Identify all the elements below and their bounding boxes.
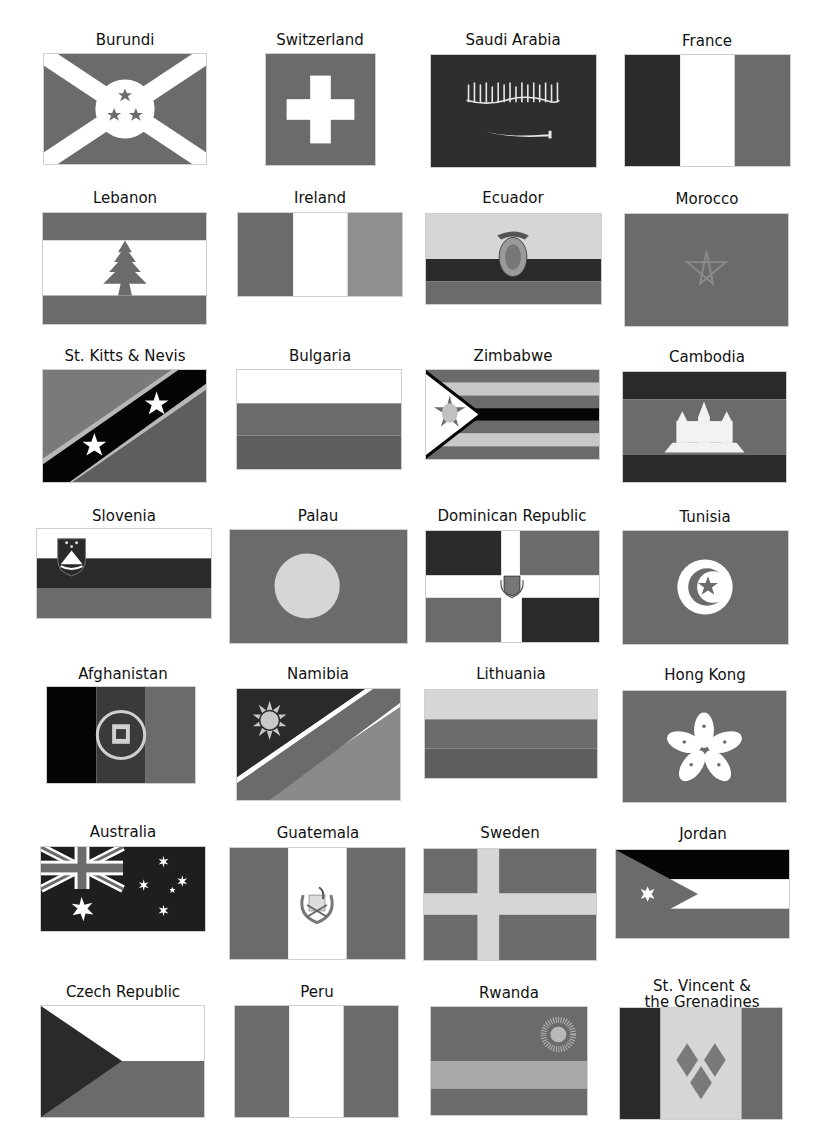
flag-palau bbox=[229, 529, 408, 644]
flag-label-peru: Peru bbox=[300, 984, 333, 1000]
disc-icon bbox=[274, 554, 339, 619]
flag-guatemala bbox=[229, 847, 406, 960]
flag-label-australia: Australia bbox=[90, 824, 156, 840]
flag-tunisia bbox=[622, 530, 789, 645]
flag-label-dominican-republic: Dominican Republic bbox=[437, 508, 586, 524]
flag-slovenia bbox=[36, 528, 212, 619]
flag-label-namibia: Namibia bbox=[287, 666, 349, 682]
flag-label-jordan: Jordan bbox=[679, 826, 727, 842]
flag-saudi-arabia bbox=[430, 54, 597, 168]
flag-sweden bbox=[423, 848, 597, 961]
flag-label-afghanistan: Afghanistan bbox=[78, 666, 167, 682]
flag-label-ireland: Ireland bbox=[294, 190, 346, 206]
flag-st-vincent-grenadines bbox=[619, 1007, 783, 1120]
flag-france bbox=[624, 54, 791, 167]
flag-czech-republic bbox=[40, 1005, 205, 1118]
flag-jordan bbox=[615, 849, 790, 939]
flag-ecuador bbox=[425, 213, 602, 305]
flag-label-st-kitts-nevis: St. Kitts & Nevis bbox=[64, 348, 185, 364]
flag-label-tunisia: Tunisia bbox=[679, 509, 730, 525]
flag-switzerland bbox=[265, 53, 376, 166]
flag-label-lebanon: Lebanon bbox=[93, 190, 157, 206]
flag-label-rwanda: Rwanda bbox=[479, 985, 539, 1001]
flag-afghanistan bbox=[46, 686, 196, 784]
flag-australia bbox=[40, 846, 206, 932]
flag-label-switzerland: Switzerland bbox=[276, 32, 364, 48]
flag-peru bbox=[234, 1005, 399, 1118]
flag-label-slovenia: Slovenia bbox=[92, 508, 156, 524]
flag-label-line1: St. Vincent & bbox=[644, 978, 759, 994]
flag-cambodia bbox=[622, 371, 787, 483]
flag-label-guatemala: Guatemala bbox=[277, 825, 360, 841]
flag-label-morocco: Morocco bbox=[676, 191, 739, 207]
flag-label-st-vincent-grenadines: St. Vincent & the Grenadines bbox=[644, 978, 759, 1010]
union-jack-icon bbox=[41, 847, 123, 889]
flag-label-france: France bbox=[682, 33, 732, 49]
flag-label-czech-republic: Czech Republic bbox=[66, 984, 180, 1000]
flag-label-bulgaria: Bulgaria bbox=[289, 348, 351, 364]
flag-ireland bbox=[237, 212, 403, 297]
flag-dominican-republic bbox=[425, 530, 600, 643]
flag-lithuania bbox=[424, 689, 598, 779]
flag-rwanda bbox=[430, 1006, 588, 1116]
flag-label-saudi-arabia: Saudi Arabia bbox=[465, 32, 560, 48]
flag-label-hong-kong: Hong Kong bbox=[664, 667, 746, 683]
flag-bulgaria bbox=[236, 369, 402, 470]
flag-morocco bbox=[624, 213, 789, 327]
flag-lebanon bbox=[42, 212, 207, 325]
flag-label-ecuador: Ecuador bbox=[482, 190, 543, 206]
shield-icon bbox=[58, 539, 86, 576]
flag-st-kitts-nevis bbox=[42, 369, 207, 483]
flag-label-palau: Palau bbox=[298, 508, 338, 524]
flag-burundi bbox=[43, 53, 207, 165]
flag-label-lithuania: Lithuania bbox=[476, 666, 545, 682]
flag-namibia bbox=[236, 688, 401, 801]
flag-hong-kong bbox=[622, 690, 787, 803]
flag-label-burundi: Burundi bbox=[96, 32, 155, 48]
flag-label-cambodia: Cambodia bbox=[669, 349, 745, 365]
flag-label-sweden: Sweden bbox=[480, 825, 539, 841]
flag-zimbabwe bbox=[425, 369, 600, 460]
flag-label-zimbabwe: Zimbabwe bbox=[474, 348, 553, 364]
bird-icon bbox=[442, 403, 458, 423]
